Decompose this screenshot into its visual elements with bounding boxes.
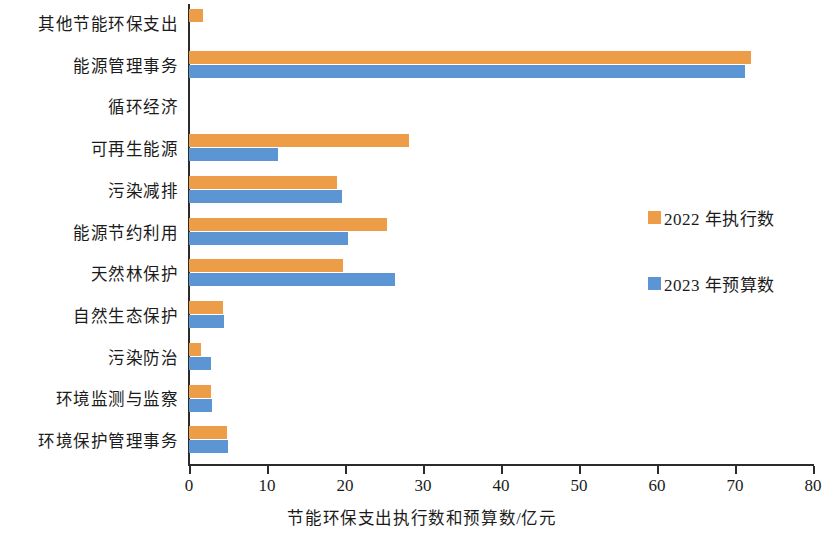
category-label: 循环经济 <box>0 98 178 118</box>
x-tick-mark <box>579 466 581 474</box>
legend-label-2023: 2023 年预算数 <box>664 271 775 296</box>
x-tick-mark <box>189 466 191 474</box>
x-tick-label: 70 <box>727 476 744 496</box>
bar-group <box>189 338 813 380</box>
x-tick-label: 0 <box>185 476 194 496</box>
legend-swatch-2023 <box>648 277 661 290</box>
x-tick-mark <box>735 466 737 474</box>
bar <box>189 176 337 189</box>
bar-group <box>189 4 813 46</box>
x-tick-label: 80 <box>805 476 822 496</box>
bar <box>189 218 387 231</box>
category-label: 自然生态保护 <box>0 307 178 327</box>
x-axis-title-text: 节能环保支出执行数和预算数/亿元 <box>287 505 556 529</box>
bar <box>189 134 409 147</box>
x-tick-mark <box>423 466 425 474</box>
bar <box>189 259 343 272</box>
x-axis-title: 节能环保支出执行数和预算数/亿元 <box>0 505 824 529</box>
bar <box>189 65 745 78</box>
x-tick-label: 30 <box>415 476 432 496</box>
x-tick-mark <box>345 466 347 474</box>
bar-group <box>189 129 813 171</box>
bar <box>189 273 395 286</box>
legend-item-2023[interactable]: 2023 年预算数 <box>648 271 824 295</box>
bar-group <box>189 380 813 422</box>
category-label: 其他节能环保支出 <box>0 15 178 35</box>
x-tick-label: 60 <box>649 476 666 496</box>
bar <box>189 190 342 203</box>
category-axis-labels: 其他节能环保支出能源管理事务循环经济可再生能源污染减排能源节约利用天然林保护自然… <box>0 4 184 463</box>
bar <box>189 426 227 439</box>
x-tick-mark <box>267 466 269 474</box>
bar <box>189 315 224 328</box>
legend-swatch-2022 <box>648 211 661 224</box>
x-tick-mark <box>501 466 503 474</box>
category-label: 能源管理事务 <box>0 57 178 77</box>
bar <box>189 399 212 412</box>
legend: 2022 年执行数 2023 年预算数 <box>648 205 824 337</box>
bar <box>189 232 348 245</box>
x-tick-label: 20 <box>337 476 354 496</box>
x-tick-mark <box>657 466 659 474</box>
category-label: 天然林保护 <box>0 265 178 285</box>
bar <box>189 301 223 314</box>
category-label: 污染减排 <box>0 182 178 202</box>
x-tick-label: 50 <box>571 476 588 496</box>
category-label: 可再生能源 <box>0 140 178 160</box>
legend-item-2022[interactable]: 2022 年执行数 <box>648 205 824 229</box>
legend-label-2022: 2022 年执行数 <box>664 205 775 230</box>
bar <box>189 357 211 370</box>
bar-group <box>189 421 813 463</box>
category-label: 污染防治 <box>0 349 178 369</box>
bar-chart: 其他节能环保支出能源管理事务循环经济可再生能源污染减排能源节约利用天然林保护自然… <box>0 0 824 533</box>
bar <box>189 148 278 161</box>
x-tick-mark <box>813 466 815 474</box>
category-label: 环境监测与监察 <box>0 390 178 410</box>
x-tick-label: 10 <box>259 476 276 496</box>
bar <box>189 440 228 453</box>
bar <box>189 343 201 356</box>
bar <box>189 51 751 64</box>
bar <box>189 9 203 22</box>
x-tick-label: 40 <box>493 476 510 496</box>
bar-group <box>189 87 813 129</box>
bar-group <box>189 46 813 88</box>
bar <box>189 385 211 398</box>
x-axis-ticks: 01020304050607080 <box>189 466 815 502</box>
category-label: 能源节约利用 <box>0 224 178 244</box>
category-label: 环境保护管理事务 <box>0 432 178 452</box>
